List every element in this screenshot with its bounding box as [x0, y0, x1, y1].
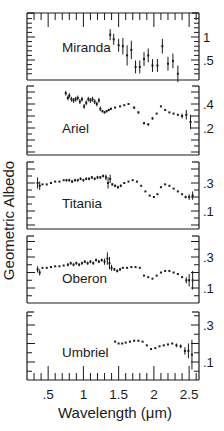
data-point [87, 98, 89, 100]
data-point [39, 185, 41, 187]
data-point [75, 262, 77, 264]
data-point [135, 266, 137, 268]
data-point [139, 66, 141, 68]
data-point [140, 185, 142, 187]
data-point [113, 268, 115, 270]
y-tick-label: .1 [203, 204, 214, 219]
data-point [70, 262, 72, 264]
data-point [151, 65, 153, 67]
data-point [181, 115, 183, 117]
data-point [114, 341, 116, 343]
data-point [85, 178, 87, 180]
data-point [81, 262, 83, 264]
data-point [143, 122, 145, 124]
data-point [177, 190, 179, 192]
y-axis-label: Geometric Albedo [0, 151, 17, 291]
data-point [95, 259, 97, 261]
data-point [188, 196, 190, 198]
data-point [99, 176, 101, 178]
data-point [181, 193, 183, 195]
y-tick-label: .1 [203, 355, 214, 370]
data-point [101, 110, 103, 112]
data-point [167, 63, 169, 65]
data-point [91, 176, 93, 178]
data-point [154, 347, 156, 349]
data-point [75, 98, 77, 100]
y-tick-label: .3 [203, 318, 214, 333]
data-point [42, 267, 44, 269]
x-tick-label: 1 [80, 387, 88, 402]
data-point [177, 114, 179, 116]
data-point [160, 272, 162, 274]
data-point [171, 343, 173, 345]
data-point [130, 266, 132, 268]
y-tick-label: .1 [203, 281, 214, 296]
data-point [94, 178, 96, 180]
data-point [120, 185, 122, 187]
panel-label-oberon: Oberon [62, 271, 107, 286]
data-point [133, 107, 135, 109]
data-point [159, 345, 161, 347]
data-point [119, 268, 121, 270]
data-point [73, 99, 75, 101]
data-point [153, 196, 155, 198]
data-point [139, 267, 141, 269]
data-point [172, 60, 174, 62]
data-point [65, 92, 67, 94]
data-point [92, 262, 94, 264]
data-point [82, 179, 84, 181]
data-point [168, 111, 170, 113]
data-point [133, 340, 135, 342]
data-point [108, 262, 110, 264]
data-point [173, 188, 175, 190]
data-point [77, 179, 79, 181]
data-point [126, 267, 128, 269]
data-point [173, 113, 175, 115]
x-tick-label: 1.5 [109, 387, 128, 402]
data-point [181, 276, 183, 278]
data-point [119, 105, 121, 107]
data-point [106, 258, 108, 260]
data-point [151, 117, 153, 119]
data-point [113, 38, 115, 40]
y-tick-label: 1 [203, 30, 210, 45]
data-point [104, 111, 106, 113]
data-point [85, 102, 87, 104]
data-point [147, 123, 149, 125]
x-tick-label: 2 [150, 387, 158, 402]
data-point [79, 101, 81, 103]
data-point [68, 95, 70, 97]
data-point [104, 261, 106, 263]
data-point [151, 278, 153, 280]
data-point [37, 182, 39, 184]
data-point [125, 342, 127, 344]
data-point [122, 267, 124, 269]
data-point [50, 182, 52, 184]
data-point [81, 98, 83, 100]
data-point [144, 190, 146, 192]
data-point [70, 98, 72, 100]
data-point [156, 275, 158, 277]
data-point [105, 176, 107, 178]
data-point [192, 195, 194, 197]
data-point [123, 182, 125, 184]
data-point [177, 273, 179, 275]
data-point [143, 58, 145, 60]
data-point [42, 183, 44, 185]
data-point [102, 175, 104, 177]
data-point [46, 183, 48, 185]
data-point [65, 179, 67, 181]
data-point [121, 343, 123, 345]
data-point [185, 279, 187, 281]
y-tick-label: .2 [203, 121, 214, 136]
data-point [180, 345, 182, 347]
y-tick-label: .3 [203, 250, 214, 265]
data-point [130, 49, 132, 51]
data-point [156, 65, 158, 67]
data-point [117, 186, 119, 188]
data-point [135, 66, 137, 68]
data-point [63, 265, 65, 267]
data-point [89, 261, 91, 263]
data-point [37, 268, 39, 270]
data-point [137, 340, 139, 342]
